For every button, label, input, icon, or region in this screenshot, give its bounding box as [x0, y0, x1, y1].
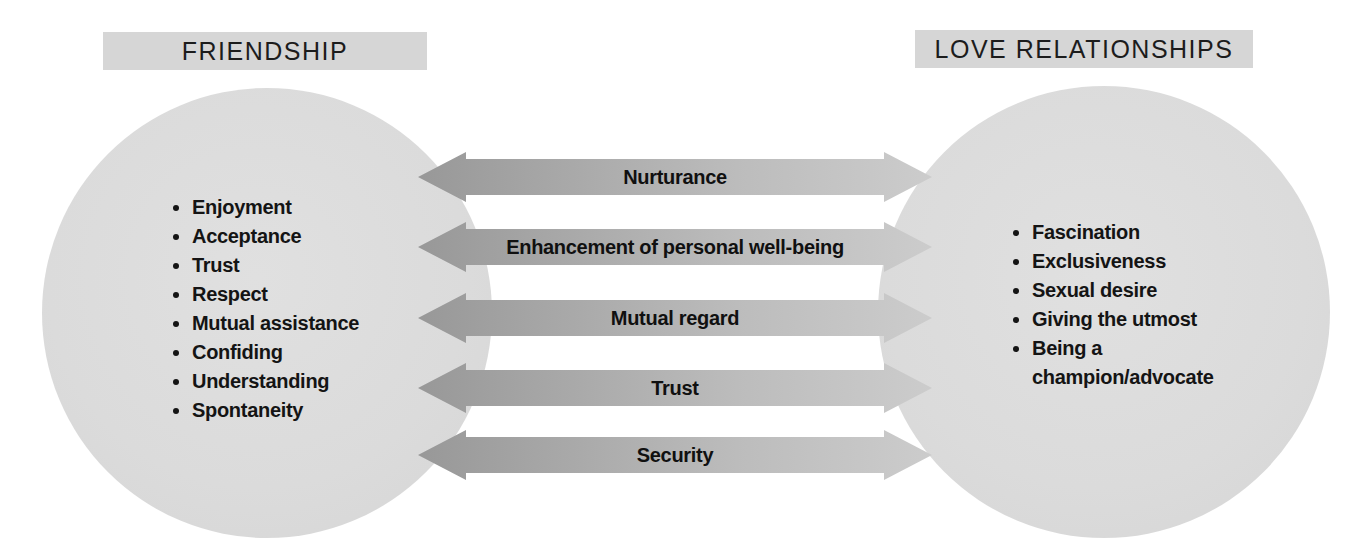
arrow-label: Trust	[418, 363, 932, 413]
list-item: Fascination	[1032, 218, 1222, 247]
double-arrow-nurturance: Nurturance	[418, 152, 932, 202]
friendship-qualities-list: Enjoyment Acceptance Trust Respect Mutua…	[168, 193, 442, 425]
love-relationships-qualities-list: Fascination Exclusiveness Sexual desire …	[1008, 218, 1222, 392]
list-item: Understanding	[192, 367, 442, 396]
friendship-love-diagram: FRIENDSHIP LOVE RELATIONSHIPS Enjoyment …	[0, 0, 1355, 552]
list-item: Being a champion/advocate	[1032, 334, 1222, 392]
love-relationships-title: LOVE RELATIONSHIPS	[915, 30, 1253, 68]
list-item: Trust	[192, 251, 442, 280]
arrow-label: Nurturance	[418, 152, 932, 202]
arrow-label: Enhancement of personal well-being	[418, 222, 932, 272]
arrow-label: Mutual regard	[418, 293, 932, 343]
list-item: Spontaneity	[192, 396, 442, 425]
list-item: Mutual assistance	[192, 309, 442, 338]
double-arrow-trust: Trust	[418, 363, 932, 413]
double-arrow-mutual-regard: Mutual regard	[418, 293, 932, 343]
list-item: Sexual desire	[1032, 276, 1222, 305]
friendship-title: FRIENDSHIP	[103, 32, 427, 70]
list-item: Respect	[192, 280, 442, 309]
double-arrow-enhancement: Enhancement of personal well-being	[418, 222, 932, 272]
double-arrow-security: Security	[418, 430, 932, 480]
list-item: Giving the utmost	[1032, 305, 1222, 334]
list-item: Confiding	[192, 338, 442, 367]
arrow-label: Security	[418, 430, 932, 480]
list-item: Enjoyment	[192, 193, 442, 222]
list-item: Acceptance	[192, 222, 442, 251]
list-item: Exclusiveness	[1032, 247, 1222, 276]
